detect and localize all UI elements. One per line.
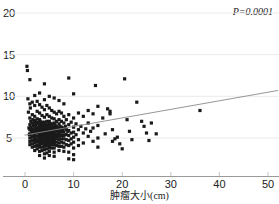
data-point (26, 69, 29, 72)
data-point (72, 141, 75, 144)
data-point (67, 157, 70, 160)
data-point (108, 112, 111, 115)
data-point (33, 104, 36, 107)
data-point (150, 121, 153, 124)
data-point (43, 108, 46, 111)
data-point (48, 95, 51, 98)
scatter-chart-figure: P=0.0001 20 15 10 5 0 10 20 30 40 50 肿瘤大… (0, 0, 279, 204)
data-point (26, 97, 29, 100)
data-point (147, 139, 150, 142)
data-point (28, 116, 31, 119)
data-point (60, 111, 63, 114)
data-point (67, 113, 70, 116)
data-point (104, 132, 107, 135)
data-point (91, 126, 94, 129)
data-point (74, 133, 77, 136)
data-point (29, 106, 32, 109)
data-point (77, 111, 80, 114)
data-point (87, 109, 90, 112)
data-point (67, 76, 70, 79)
data-point (31, 101, 34, 104)
data-point (72, 158, 75, 161)
data-point (67, 151, 70, 154)
data-point (96, 136, 99, 139)
data-point (145, 131, 148, 134)
data-point (48, 154, 51, 157)
data-point (53, 151, 56, 154)
data-point (62, 150, 65, 153)
data-point (72, 92, 75, 95)
data-point (130, 138, 133, 141)
data-point (70, 121, 73, 124)
data-point (62, 121, 65, 124)
data-point (123, 77, 126, 80)
data-point (72, 146, 75, 149)
data-point (121, 147, 124, 150)
data-point (82, 141, 85, 144)
data-point (101, 116, 104, 119)
data-point (140, 120, 143, 123)
data-point (96, 105, 99, 108)
data-point (91, 112, 94, 115)
data-point (125, 118, 128, 121)
data-points (25, 65, 201, 162)
data-point (38, 154, 41, 157)
data-point (91, 140, 94, 143)
data-point (155, 132, 158, 135)
plot-area (0, 0, 279, 204)
data-point (43, 98, 46, 101)
data-point (94, 84, 97, 87)
data-point (57, 99, 60, 102)
data-point (53, 155, 56, 158)
data-point (111, 128, 114, 131)
data-point (72, 116, 75, 119)
data-point (62, 102, 65, 105)
data-point (118, 142, 121, 145)
data-point (77, 138, 80, 141)
data-point (62, 115, 65, 118)
gridlines (3, 13, 279, 138)
data-point (128, 130, 131, 133)
data-point (43, 156, 46, 159)
data-point (48, 150, 51, 153)
data-point (96, 124, 99, 127)
data-point (53, 96, 56, 99)
data-point (198, 109, 201, 112)
data-point (36, 100, 39, 103)
data-point (77, 128, 80, 131)
data-point (84, 127, 87, 130)
data-point (89, 130, 92, 133)
data-point (72, 153, 75, 156)
data-point (28, 78, 31, 81)
data-point (135, 101, 138, 104)
data-point (142, 125, 145, 128)
data-point (82, 115, 85, 118)
data-point (77, 144, 80, 147)
data-point (27, 111, 30, 114)
data-point (33, 94, 36, 97)
data-point (87, 135, 90, 138)
data-point (96, 146, 99, 149)
data-point (25, 65, 28, 68)
data-point (82, 131, 85, 134)
data-point (116, 136, 119, 139)
data-point (74, 122, 77, 125)
data-point (65, 118, 68, 121)
data-point (38, 91, 41, 94)
data-point (57, 149, 60, 152)
data-point (43, 82, 46, 85)
